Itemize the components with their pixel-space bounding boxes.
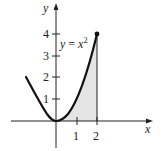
y-tick-label-1: 1 [43,92,49,106]
function-label: y = x2 [59,36,87,51]
y-axis-arrow-icon [54,3,59,10]
x-axis-label: x [144,122,151,136]
y-tick-label-4: 4 [43,27,49,41]
y-axis-label: y [42,1,49,15]
parabola-chart: y x 1 2 1 2 3 4 y = x2 [0,0,161,151]
x-tick-label-1: 1 [73,129,79,143]
x-tick-label-2: 2 [93,129,99,143]
y-tick-label-2: 2 [43,70,49,84]
endpoint-dot [95,32,100,37]
y-tick-label-3: 3 [43,49,49,63]
